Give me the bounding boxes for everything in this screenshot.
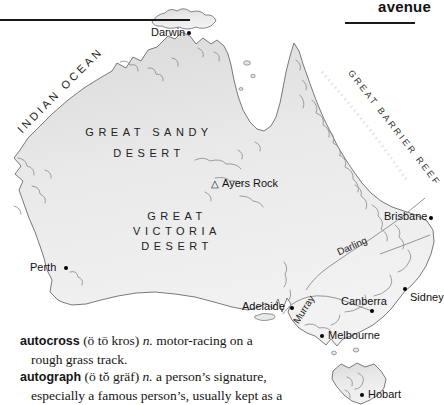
entry-definition: a person’s signature,: [156, 369, 267, 384]
gulf-island: [251, 74, 255, 77]
city-label-darwin: Darwin: [151, 26, 185, 38]
entry-pronunciation: (ö tŏ gräf): [84, 369, 139, 384]
entry-definition-continued: especially a famous person’s, usually ke…: [31, 387, 360, 405]
top-left-rule: [0, 19, 190, 21]
city-label-sydney: Sidney: [410, 291, 444, 303]
entry-part-of-speech: n.: [143, 333, 153, 348]
great-sandy-desert-label: GREAT SANDY DESERT: [84, 126, 214, 159]
city-label-perth: Perth: [30, 261, 56, 273]
entry-headword: autograph: [20, 370, 81, 384]
city-dot-sydney: [403, 287, 407, 291]
city-label-canberra: Canberra: [341, 295, 387, 307]
city-dot-perth: [64, 266, 68, 270]
desert-label-line: DESERT: [122, 240, 232, 252]
dictionary-entry: autograph (ö tŏ gräf) n. a person’s sign…: [20, 368, 360, 404]
desert-label-line: GREAT SANDY: [84, 126, 214, 138]
kangaroo-island: [254, 313, 275, 320]
desert-label-line: DESERT: [84, 147, 214, 159]
city-dot-canberra: [370, 309, 374, 313]
great-victoria-desert-label: GREAT VICTORIA DESERT: [122, 210, 232, 255]
city-dot-adelaide: [290, 306, 294, 310]
ayers-rock-label: △Ayers Rock: [211, 177, 278, 189]
city-label-brisbane: Brisbane: [384, 210, 427, 222]
desert-label-line: GREAT: [122, 210, 232, 222]
entry-headword: autocross: [20, 334, 80, 348]
entry-pronunciation: (ö tō kros): [83, 333, 139, 348]
entry-definition: motor-racing on a: [156, 333, 252, 348]
guide-word-rule: [345, 22, 415, 24]
city-dot-brisbane: [429, 216, 433, 220]
gulf-island: [239, 88, 243, 91]
mountain-triangle-icon: △: [211, 178, 219, 189]
gulf-island: [244, 61, 251, 65]
city-dot-darwin: [187, 31, 191, 35]
entry-definition-continued: rough grass track.: [31, 351, 360, 369]
guide-word: avenue: [378, 0, 431, 15]
dictionary-entries: autocross (ö tō kros) n. motor-racing on…: [20, 332, 360, 404]
entry-part-of-speech: n.: [143, 369, 153, 384]
city-label-adelaide: Adelaide: [242, 300, 285, 312]
desert-label-line: VICTORIA: [122, 225, 232, 237]
city-label-hobart: Hobart: [368, 388, 401, 400]
dictionary-entry: autocross (ö tō kros) n. motor-racing on…: [20, 332, 360, 368]
city-dot-hobart: [360, 393, 364, 397]
